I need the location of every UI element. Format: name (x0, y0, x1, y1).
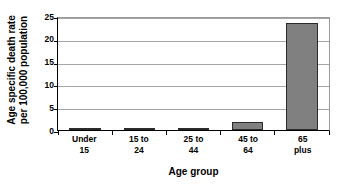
bar-chart: Age specific death rate per 100,000 popu… (0, 0, 346, 191)
bar[interactable] (232, 122, 263, 130)
y-axis-tick-mark (54, 132, 58, 133)
x-axis-tick-label-line-2: 64 (221, 145, 276, 156)
bar-slot[interactable] (58, 18, 112, 130)
y-axis-tick-mark (54, 109, 58, 110)
y-axis-title-line-1: Age specific death rate (6, 15, 18, 124)
y-axis-tick-mark (54, 86, 58, 87)
x-axis-tick-label-line-2: plus (275, 145, 330, 156)
x-axis-tick-label-line-2: 15 (57, 145, 112, 156)
x-axis-tick-label: 15 to24 (112, 134, 167, 164)
x-axis-tick-labels: Under1515 to2425 to4445 to6465plus (57, 134, 330, 164)
bar[interactable] (69, 128, 100, 130)
y-axis-title: Age specific death rate per 100,000 popu… (0, 0, 34, 140)
bar-series (58, 18, 329, 130)
x-axis-tick-label-line-1: 15 to (112, 134, 167, 145)
y-axis-tick-label: 20 (36, 35, 54, 44)
y-axis-tick-label: 0 (36, 127, 54, 136)
y-axis-tick-label: 10 (36, 81, 54, 90)
y-axis-tick-labels: 0510152025 (34, 0, 54, 140)
y-axis-tick-mark (54, 41, 58, 42)
x-axis-tick-label: 65plus (275, 134, 330, 164)
y-axis-tick-mark (54, 64, 58, 65)
y-axis-tick-mark (54, 18, 58, 19)
bar-slot[interactable] (221, 18, 275, 130)
x-axis-tick-label: Under15 (57, 134, 112, 164)
bar-slot[interactable] (166, 18, 220, 130)
x-axis-tick-label-line-1: 65 (275, 134, 330, 145)
x-axis-tick-label: 45 to64 (221, 134, 276, 164)
x-axis-tick-label-line-2: 24 (112, 145, 167, 156)
bar[interactable] (124, 128, 155, 130)
y-axis-tick-label: 5 (36, 104, 54, 113)
x-axis-tick-label-line-2: 44 (166, 145, 221, 156)
y-axis-title-line-2: per 100,000 population (17, 15, 29, 124)
y-axis-tick-label: 25 (36, 13, 54, 22)
x-axis-tick-label: 25 to44 (166, 134, 221, 164)
x-axis-tick-label-line-1: 25 to (166, 134, 221, 145)
x-axis-tick-label-line-1: Under (57, 134, 112, 145)
bar[interactable] (178, 128, 209, 130)
bar-slot[interactable] (112, 18, 166, 130)
plot-area (57, 17, 330, 131)
bar[interactable] (286, 23, 317, 130)
x-axis-title: Age group (57, 166, 330, 177)
bar-slot[interactable] (275, 18, 329, 130)
x-axis-tick-label-line-1: 45 to (221, 134, 276, 145)
y-axis-tick-label: 15 (36, 58, 54, 67)
